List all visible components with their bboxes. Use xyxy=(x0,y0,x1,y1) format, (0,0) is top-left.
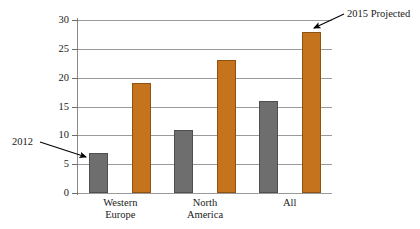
annotation-label-2012: 2012 xyxy=(12,137,33,148)
gridline xyxy=(78,107,332,108)
y-axis-tick-mark xyxy=(72,78,78,79)
y-axis-tick-label: 30 xyxy=(59,15,70,26)
bar-2015-projected-western-europe xyxy=(132,83,151,193)
y-axis-tick-label: 0 xyxy=(64,188,69,199)
y-axis-tick-label: 20 xyxy=(59,72,70,83)
bar-2015-projected-north-america xyxy=(217,60,236,193)
y-axis-tick-mark xyxy=(72,135,78,136)
bar-2012-all xyxy=(259,101,278,193)
x-axis-label-north-america: North America xyxy=(163,197,248,221)
bar-chart: 051015202530 Western EuropeNorth America… xyxy=(0,0,420,229)
y-axis-tick-label: 5 xyxy=(64,159,69,170)
y-axis-tick-label: 15 xyxy=(59,101,70,112)
gridline xyxy=(78,135,332,136)
y-axis-tick-mark xyxy=(72,49,78,50)
gridline xyxy=(78,20,332,21)
y-axis-tick-mark xyxy=(72,164,78,165)
bar-2012-north-america xyxy=(174,130,193,193)
y-axis-tick-mark xyxy=(72,20,78,21)
y-axis-tick-label: 10 xyxy=(59,130,70,141)
gridline xyxy=(78,49,332,50)
annotation-label-2015-projected: 2015 Projected xyxy=(347,9,410,20)
y-axis-tick-mark xyxy=(72,107,78,108)
gridline xyxy=(78,78,332,79)
y-axis-tick-mark xyxy=(72,193,78,194)
plot-area: 051015202530 xyxy=(78,20,332,193)
gridline xyxy=(78,193,332,194)
x-axis-label-all: All xyxy=(247,197,332,209)
gridline xyxy=(78,164,332,165)
bar-2012-western-europe xyxy=(89,153,108,193)
bar-2015-projected-all xyxy=(302,32,321,193)
x-axis-label-western-europe: Western Europe xyxy=(78,197,163,221)
y-axis-tick-label: 25 xyxy=(59,44,70,55)
